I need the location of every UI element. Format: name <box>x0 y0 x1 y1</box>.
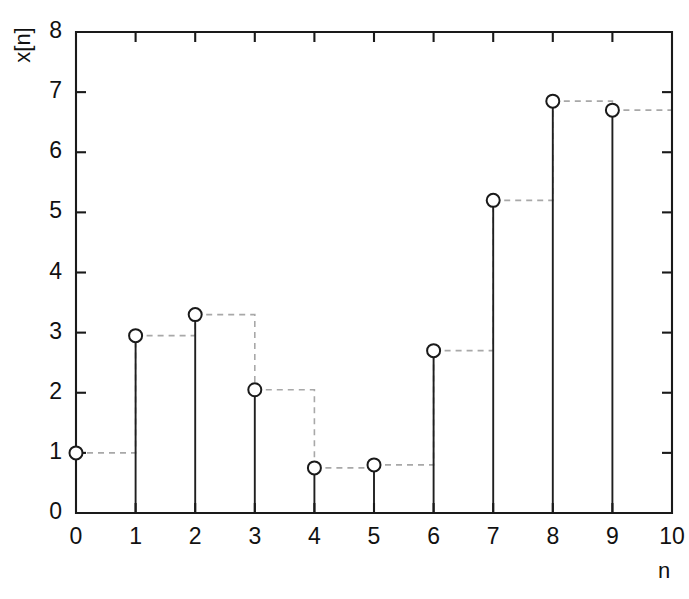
stem-lines-group <box>76 101 612 513</box>
y-axis-title: x[n] <box>10 27 35 62</box>
data-point-marker <box>546 95 559 108</box>
x-tick-label: 6 <box>427 523 440 549</box>
y-axis-tick-labels: 012345678 <box>49 17 62 524</box>
x-axis-tick-labels: 012345678910 <box>70 523 685 549</box>
y-axis-ticks <box>76 92 672 453</box>
y-tick-label: 8 <box>49 17 62 43</box>
axis-labels: 012345678 012345678910 x[n] n <box>10 17 685 583</box>
data-point-marker <box>487 194 500 207</box>
y-tick-label: 4 <box>49 258 62 284</box>
x-tick-label: 10 <box>659 523 685 549</box>
hold-staircase-path <box>76 101 672 468</box>
data-point-marker <box>129 329 142 342</box>
data-point-marker <box>308 461 321 474</box>
data-point-marker <box>189 308 202 321</box>
y-tick-label: 7 <box>49 77 62 103</box>
x-tick-label: 9 <box>606 523 619 549</box>
x-axis-ticks <box>136 32 613 513</box>
x-axis-title: n <box>658 558 670 583</box>
data-point-marker <box>70 446 83 459</box>
data-point-marker <box>368 458 381 471</box>
plot-frame-border <box>76 32 672 513</box>
y-tick-label: 5 <box>49 197 62 223</box>
data-point-marker <box>606 104 619 117</box>
x-tick-label: 5 <box>368 523 381 549</box>
y-tick-label: 6 <box>49 137 62 163</box>
stem-plot-figure: 012345678 012345678910 x[n] n <box>0 0 689 599</box>
stem-plot-canvas: 012345678 012345678910 x[n] n <box>0 0 689 599</box>
plot-axes <box>76 32 672 513</box>
x-tick-label: 4 <box>308 523 321 549</box>
x-tick-label: 0 <box>70 523 83 549</box>
x-tick-label: 8 <box>546 523 559 549</box>
y-tick-label: 3 <box>49 318 62 344</box>
data-point-marker <box>427 344 440 357</box>
x-tick-label: 1 <box>129 523 142 549</box>
x-tick-label: 2 <box>189 523 202 549</box>
x-tick-label: 3 <box>248 523 261 549</box>
x-tick-label: 7 <box>487 523 500 549</box>
y-tick-label: 0 <box>49 498 62 524</box>
data-point-marker <box>248 383 261 396</box>
y-tick-label: 2 <box>49 378 62 404</box>
y-tick-label: 1 <box>49 438 62 464</box>
data-point-markers <box>70 95 619 475</box>
zero-order-hold-staircase <box>76 101 672 468</box>
